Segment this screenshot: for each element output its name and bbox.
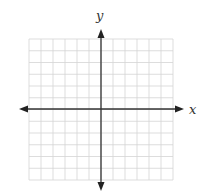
y-axis-label: y bbox=[95, 8, 104, 23]
y-axis-down-arrow-icon bbox=[98, 182, 105, 191]
x-axis-label: x bbox=[189, 102, 197, 117]
x-axis-left-arrow-icon bbox=[19, 106, 28, 113]
x-axis-right-arrow-icon bbox=[175, 106, 184, 113]
y-axis-up-arrow-icon bbox=[98, 29, 105, 38]
coordinate-plane: y x bbox=[0, 0, 215, 192]
